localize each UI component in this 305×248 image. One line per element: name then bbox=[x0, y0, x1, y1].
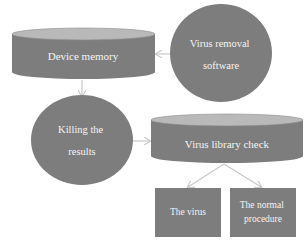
node-the-normal-procedure: The normal procedure bbox=[230, 188, 296, 237]
rectangle-shape bbox=[230, 188, 296, 237]
node-label: Device memory bbox=[48, 50, 119, 62]
node-device-memory: Device memory bbox=[12, 28, 155, 79]
node-the-virus: The virus bbox=[155, 188, 221, 237]
node-virus-library-check: Virus library check bbox=[151, 114, 303, 163]
cylinder-top bbox=[12, 28, 155, 40]
circle-shape bbox=[170, 4, 272, 102]
circle-shape bbox=[31, 95, 133, 185]
node-label: Virus library check bbox=[185, 138, 270, 150]
node-label: The virus bbox=[170, 207, 206, 217]
edge-virus-library-to-the-virus bbox=[188, 164, 224, 187]
node-virus-removal-software: Virus removal software bbox=[170, 4, 272, 102]
cylinder-top bbox=[151, 114, 303, 126]
edge-virus-library-to-normal-procedure bbox=[224, 164, 261, 187]
node-killing-the-results: Killing the results bbox=[31, 95, 133, 185]
flow-diagram: Device memory Virus removal software Kil… bbox=[0, 0, 305, 248]
